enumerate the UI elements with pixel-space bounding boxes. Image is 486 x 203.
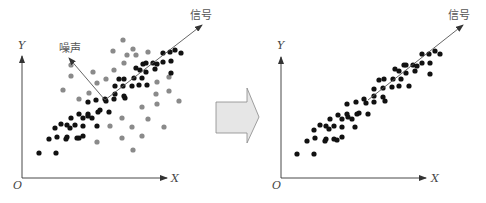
signal-point <box>121 76 126 81</box>
signal-point <box>168 58 173 63</box>
signal-point <box>58 121 63 126</box>
signal-point <box>36 150 41 155</box>
signal-point <box>406 83 411 88</box>
signal-point <box>52 125 57 130</box>
noise-point <box>68 62 73 67</box>
signal-point <box>129 83 134 88</box>
left-x-axis-label: X <box>170 172 180 185</box>
right-panel: O X Y 信号 <box>272 9 470 192</box>
signal-point <box>168 70 173 75</box>
signal-point <box>344 101 349 106</box>
signal-point <box>427 71 432 76</box>
signal-point <box>311 127 316 132</box>
noise-point <box>166 88 171 93</box>
signal-point <box>64 134 69 139</box>
noise-point <box>133 52 138 57</box>
signal-point <box>139 75 144 80</box>
signal-point <box>356 110 361 115</box>
signal-point <box>143 60 148 65</box>
signal-point <box>339 116 344 121</box>
pca-denoising-diagram: O X Y 噪声 信号 O X Y 信号 <box>0 0 486 203</box>
signal-point <box>112 83 117 88</box>
noise-point <box>94 139 99 144</box>
signal-point <box>160 59 165 64</box>
signal-point <box>371 86 376 91</box>
signal-point <box>144 82 149 87</box>
left-panel: O X Y 噪声 信号 <box>13 9 212 192</box>
noise-point <box>154 79 159 84</box>
signal-point <box>363 100 368 105</box>
noise-point <box>119 115 124 120</box>
signal-point <box>54 134 59 139</box>
signal-point <box>94 123 99 128</box>
noise-point <box>120 37 125 42</box>
signal-point <box>419 60 424 65</box>
signal-point <box>371 99 376 104</box>
signal-point <box>437 51 442 56</box>
signal-point <box>331 123 336 128</box>
signal-point <box>427 60 432 65</box>
signal-point <box>152 66 157 71</box>
signal-point <box>93 97 98 102</box>
signal-point <box>412 68 417 73</box>
signal-point <box>353 99 358 104</box>
signal-point <box>312 135 317 140</box>
signal-point <box>349 116 354 121</box>
noise-point <box>68 73 73 78</box>
signal-point <box>381 76 386 81</box>
signal-point <box>154 61 159 66</box>
signal-point <box>68 115 73 120</box>
signal-point <box>53 150 58 155</box>
signal-point <box>389 84 394 89</box>
noise-point <box>76 96 81 101</box>
signal-point <box>311 151 316 156</box>
signal-point <box>294 151 299 156</box>
signal-points <box>36 47 183 155</box>
signal-point <box>376 77 381 82</box>
transition-arrow <box>216 88 259 143</box>
signal-vector <box>105 25 202 100</box>
noise-point <box>86 90 91 95</box>
signal-point <box>136 82 141 87</box>
noise-point <box>176 98 181 103</box>
noise-point <box>60 87 65 92</box>
signal-point <box>85 99 90 104</box>
signal-point <box>396 83 401 88</box>
signal-point <box>326 126 331 131</box>
signal-point <box>304 138 309 143</box>
signal-point <box>398 76 403 81</box>
signal-point <box>80 133 85 138</box>
right-signal-label: 信号 <box>448 9 470 22</box>
signal-point <box>178 50 183 55</box>
noise-point <box>119 135 124 140</box>
signal-point <box>432 48 437 53</box>
signal-point <box>317 122 322 127</box>
right-x-axis-label: X <box>430 172 440 185</box>
signal-point <box>80 123 85 128</box>
signal-point <box>172 47 177 52</box>
signal-point <box>80 115 85 120</box>
left-origin-label: O <box>13 179 22 192</box>
noise-point <box>103 76 108 81</box>
signal-point <box>365 111 370 116</box>
signal-point <box>67 125 72 130</box>
signal-point <box>396 68 401 73</box>
signal-point <box>323 136 328 141</box>
noise-point <box>130 147 135 152</box>
signal-point <box>334 137 339 142</box>
noise-point <box>145 116 150 121</box>
signal-point <box>335 112 340 117</box>
signal-point <box>339 124 344 129</box>
signal-point <box>111 96 116 101</box>
noise-point <box>129 124 134 129</box>
right-origin-label: O <box>272 179 281 192</box>
noise-point <box>139 104 144 109</box>
right-y-axis-label: Y <box>277 39 286 52</box>
left-y-axis-label: Y <box>18 39 27 52</box>
signal-point <box>414 63 419 68</box>
signal-point <box>46 136 51 141</box>
right-block-arrow-icon <box>216 88 259 143</box>
noise-point <box>139 133 144 138</box>
signal-point <box>76 111 81 116</box>
signal-point <box>89 115 94 120</box>
